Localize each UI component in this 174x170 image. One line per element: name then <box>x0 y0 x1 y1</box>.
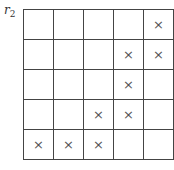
label-subscript: 2 <box>10 9 16 19</box>
cross-mark-icon: × <box>123 47 134 62</box>
grid-cell-r4-c3 <box>114 130 144 160</box>
grid-cell-r3-c1 <box>54 100 84 130</box>
grid-cell-r1-c4: × <box>144 40 174 70</box>
grid-cell-r0-c3 <box>114 10 144 40</box>
grid-cell-r1-c2 <box>84 40 114 70</box>
grid-cell-r0-c2 <box>84 10 114 40</box>
grid-cell-r1-c0 <box>24 40 54 70</box>
grid-cell-r4-c4 <box>144 130 174 160</box>
grid-cell-r3-c2: × <box>84 100 114 130</box>
grid-cell-r0-c0 <box>24 10 54 40</box>
grid-cell-r4-c0: × <box>24 130 54 160</box>
board-grid: ××××××××× <box>23 9 174 160</box>
grid-cell-r2-c0 <box>24 70 54 100</box>
grid-cell-r0-c4: × <box>144 10 174 40</box>
grid-cell-r2-c4 <box>144 70 174 100</box>
cross-mark-icon: × <box>93 137 104 152</box>
grid-cell-r3-c3: × <box>114 100 144 130</box>
grid-cell-r1-c3: × <box>114 40 144 70</box>
grid-cell-r2-c3: × <box>114 70 144 100</box>
cross-mark-icon: × <box>63 137 74 152</box>
cross-mark-icon: × <box>153 47 164 62</box>
grid-cell-r2-c2 <box>84 70 114 100</box>
grid-cell-r4-c1: × <box>54 130 84 160</box>
grid-cell-r3-c4 <box>144 100 174 130</box>
grid-cell-r0-c1 <box>54 10 84 40</box>
grid-cell-r1-c1 <box>54 40 84 70</box>
cross-mark-icon: × <box>123 77 134 92</box>
grid-cell-r4-c2: × <box>84 130 114 160</box>
cross-mark-icon: × <box>93 107 104 122</box>
grid-cell-r2-c1 <box>54 70 84 100</box>
cross-mark-icon: × <box>33 137 44 152</box>
grid-cell-r3-c0 <box>24 100 54 130</box>
cross-mark-icon: × <box>153 17 164 32</box>
cross-mark-icon: × <box>123 107 134 122</box>
board-label: r2 <box>4 3 15 19</box>
